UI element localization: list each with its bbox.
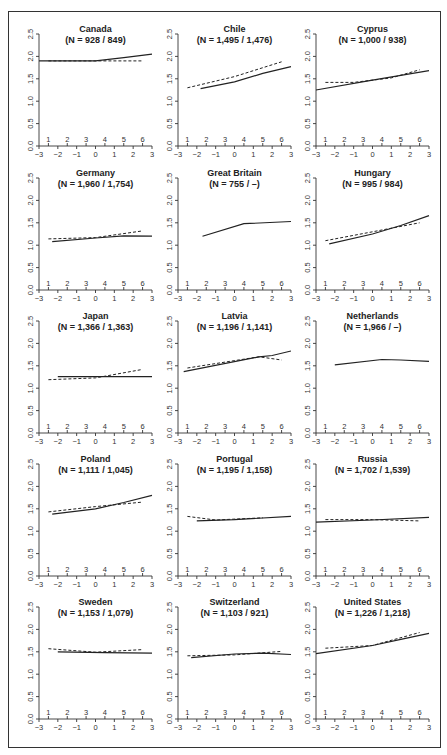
- y-tick-label: 1.5: [26, 361, 35, 371]
- inner-tick-label: 5: [122, 135, 126, 144]
- x-tick-label: 0: [370, 580, 374, 589]
- x-tick-label: −2: [193, 723, 202, 732]
- x-tick-label: −2: [331, 723, 340, 732]
- y-tick-label: 0.5: [26, 691, 35, 701]
- solid-series-line: [335, 360, 429, 365]
- solid-series-line: [191, 653, 291, 658]
- y-tick-label: 2.0: [26, 624, 35, 634]
- y-tick-label: 1.5: [303, 647, 312, 657]
- x-tick-label: 1: [251, 580, 255, 589]
- x-tick-label: −2: [54, 437, 63, 446]
- y-tick-label: 1.5: [165, 647, 174, 657]
- panel-n-label: (N = 1,366 / 1,363): [58, 322, 133, 332]
- x-tick-label: −2: [331, 294, 340, 303]
- y-tick-label: 2.0: [165, 624, 174, 634]
- inner-tick-label: 5: [399, 279, 403, 288]
- x-tick-label: −3: [312, 723, 321, 732]
- y-tick-label: 2.5: [303, 602, 312, 612]
- y-tick-label: 2.5: [26, 29, 35, 39]
- inner-tick-label: 5: [261, 708, 265, 717]
- x-tick-label: −1: [211, 723, 220, 732]
- inner-tick-label: 3: [361, 708, 365, 717]
- x-tick-label: −2: [193, 294, 202, 303]
- inner-tick-label: 6: [417, 279, 421, 288]
- inner-tick-label: 6: [140, 279, 144, 288]
- panel-n-label: (N = 1,196 / 1,141): [197, 322, 272, 332]
- x-tick-label: 0: [232, 294, 236, 303]
- inner-tick-label: 4: [380, 708, 384, 717]
- y-tick-label: 0.0: [26, 714, 35, 724]
- x-tick-label: −1: [72, 150, 81, 159]
- x-tick-label: 1: [112, 150, 116, 159]
- x-tick-label: 1: [389, 150, 393, 159]
- x-tick-label: 3: [289, 580, 293, 589]
- y-tick-label: 0.5: [303, 548, 312, 558]
- x-tick-label: 2: [408, 294, 412, 303]
- inner-tick-label: 4: [242, 708, 246, 717]
- inner-tick-label: 6: [140, 565, 144, 574]
- x-tick-label: 2: [270, 723, 274, 732]
- x-tick-label: −3: [174, 437, 183, 446]
- inner-tick-label: 6: [140, 422, 144, 431]
- x-tick-label: −1: [211, 150, 220, 159]
- x-tick-label: 2: [131, 437, 135, 446]
- x-tick-label: −1: [211, 294, 220, 303]
- y-tick-label: 0.0: [165, 714, 174, 724]
- panel-russia: Russia(N = 1,702 / 1,539)0.00.51.01.52.0…: [303, 454, 431, 589]
- y-tick-label: 0.5: [26, 548, 35, 558]
- panel-hungary: Hungary(N = 995 / 984)0.00.51.01.52.02.5…: [303, 168, 431, 303]
- panel-title: United States: [344, 597, 402, 607]
- panel-n-label: (N = 1,495 / 1,476): [197, 35, 272, 45]
- y-tick-label: 2.0: [165, 481, 174, 491]
- inner-tick-label: 1: [323, 708, 327, 717]
- x-tick-label: 2: [408, 580, 412, 589]
- y-tick-label: 2.5: [26, 602, 35, 612]
- inner-tick-label: 2: [204, 565, 208, 574]
- x-tick-label: −2: [193, 150, 202, 159]
- panel-canada: Canada(N = 928 / 849)0.00.51.01.52.02.5−…: [26, 24, 154, 159]
- x-tick-label: −3: [35, 723, 44, 732]
- x-tick-label: 0: [93, 294, 97, 303]
- inner-tick-label: 3: [223, 135, 227, 144]
- inner-tick-label: 4: [380, 565, 384, 574]
- panel-cyprus: Cyprus(N = 1,000 / 938)0.00.51.01.52.02.…: [303, 24, 431, 159]
- y-tick-label: 2.0: [303, 195, 312, 205]
- y-tick-label: 1.5: [303, 74, 312, 84]
- y-tick-label: 0.0: [26, 141, 35, 151]
- panel-portugal: Portugal(N = 1,195 / 1,158)0.00.51.01.52…: [165, 454, 293, 589]
- inner-tick-label: 2: [342, 422, 346, 431]
- inner-tick-label: 3: [223, 708, 227, 717]
- panel-n-label: (N = 755 / –): [209, 179, 259, 189]
- y-tick-label: 2.5: [26, 316, 35, 326]
- x-tick-label: −2: [331, 437, 340, 446]
- x-tick-label: −3: [174, 723, 183, 732]
- inner-tick-label: 5: [399, 565, 403, 574]
- y-tick-label: 0.5: [26, 118, 35, 128]
- y-tick-label: 2.5: [165, 173, 174, 183]
- panel-n-label: (N = 995 / 984): [342, 179, 402, 189]
- inner-tick-label: 1: [185, 422, 189, 431]
- inner-tick-label: 4: [380, 279, 384, 288]
- inner-tick-label: 3: [361, 279, 365, 288]
- panel-title: Cyprus: [357, 24, 388, 34]
- inner-tick-label: 2: [342, 708, 346, 717]
- y-tick-label: 0.0: [26, 571, 35, 581]
- y-tick-label: 1.0: [303, 526, 312, 536]
- x-tick-label: 0: [370, 294, 374, 303]
- solid-series-line: [184, 351, 291, 372]
- inner-tick-label: 3: [84, 422, 88, 431]
- x-tick-label: 0: [93, 580, 97, 589]
- y-tick-label: 2.0: [165, 51, 174, 61]
- panel-n-label: (N = 1,103 / 921): [201, 608, 269, 618]
- inner-tick-label: 5: [261, 279, 265, 288]
- inner-tick-label: 6: [417, 422, 421, 431]
- x-tick-label: 0: [232, 437, 236, 446]
- inner-tick-label: 2: [342, 279, 346, 288]
- y-tick-label: 0.5: [303, 691, 312, 701]
- panel-title: Portugal: [216, 454, 253, 464]
- inner-tick-label: 5: [261, 422, 265, 431]
- inner-tick-label: 1: [185, 565, 189, 574]
- panel-netherlands: Netherlands(N = 1,966 / –)0.00.51.01.52.…: [303, 311, 431, 446]
- dashed-series-line: [48, 369, 142, 379]
- x-tick-label: 0: [232, 150, 236, 159]
